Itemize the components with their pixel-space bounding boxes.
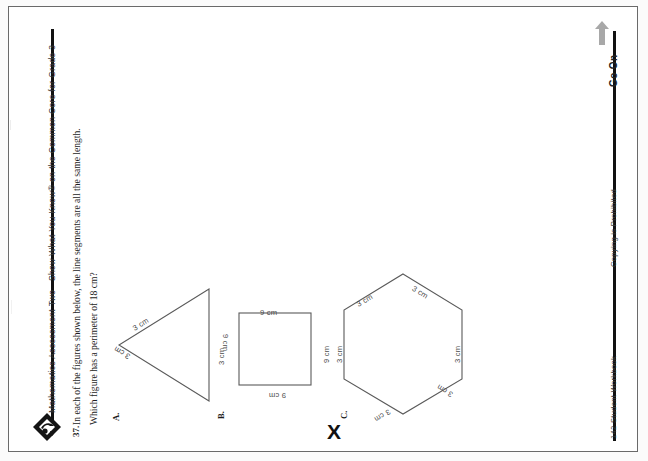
choice-label-b[interactable]: B.	[216, 411, 226, 419]
worksheet-page: Mathematics Assessment Two Show What You…	[8, 6, 638, 452]
header-right-title: Show What You Know® on the Common Core f…	[47, 45, 57, 281]
figure-triangle: 3 cm 3 cm 3 cm	[117, 283, 217, 407]
header-left-title: Mathematics Assessment Two	[47, 290, 57, 413]
figure-hexagon: 3 cm 3 cm 3 cm 3 cm 3 cm 3 cm	[337, 271, 469, 417]
question-number: 37.	[71, 426, 81, 437]
question-prompt-line-1: In each of the figures shown below, the …	[71, 128, 82, 425]
scan-speckle	[11, 300, 12, 314]
question-prompt-line-2: Which figure has a perimeter of 18 cm?	[88, 272, 99, 425]
triangle-shape	[117, 283, 217, 407]
square-side-label-right: 9 cm	[322, 346, 331, 363]
square-shape	[238, 312, 312, 386]
hexagon-side-label-3: 3 cm	[453, 346, 462, 363]
square-side-label-left: 9 cm	[221, 334, 230, 351]
student-answer-mark: X	[327, 421, 341, 442]
square-side-label-top: 9 cm	[260, 308, 277, 317]
show-what-you-know-logo	[31, 411, 63, 443]
hexagon-side-label-6: 3 cm	[335, 346, 344, 363]
go-on-arrow-icon	[595, 21, 609, 43]
square-side-label-bottom: 9 cm	[269, 391, 286, 400]
go-on-label: Go On	[608, 54, 619, 87]
scan-background: Mathematics Assessment Two Show What You…	[0, 0, 648, 461]
scan-speckle	[10, 120, 11, 130]
choice-label-a[interactable]: A.	[111, 413, 121, 421]
footer-page-number: 142 Student Workbook	[609, 356, 618, 439]
figure-square: 9 cm 9 cm 9 cm 9 cm	[238, 312, 312, 386]
footer-copyright: Copying is Prohibited	[609, 189, 618, 267]
